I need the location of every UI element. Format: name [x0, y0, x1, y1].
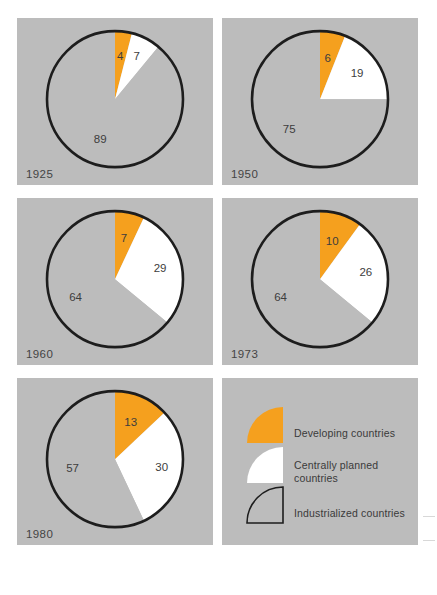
- slice-value-developing: 7: [121, 232, 127, 244]
- year-label-1950: 1950: [231, 169, 258, 181]
- slice-value-centrally_planned: 19: [351, 66, 364, 78]
- pie-panel-1980: 133057 1980: [17, 378, 213, 545]
- pie-chart-figure: 4789 1925 61975 1950 72964 1960 102664 1…: [0, 0, 437, 595]
- pie-chart-1925: 4789: [44, 27, 187, 170]
- legend-label-developing: Developing countries: [294, 427, 395, 440]
- legend-label-industrialized: Industrialized countries: [294, 507, 405, 520]
- legend-item-developing: Developing countries: [242, 405, 418, 445]
- slice-value-industrialized: 64: [69, 290, 82, 302]
- quarter-circle-white-icon: [245, 445, 285, 485]
- pie-chart-1960: 72964: [44, 207, 187, 350]
- year-label-1980: 1980: [26, 529, 53, 541]
- legend-item-industrialized: Industrialized countries: [242, 485, 418, 525]
- slice-value-centrally_planned: 29: [154, 262, 167, 274]
- quarter-circle-outline-icon: [245, 485, 285, 525]
- pie-chart-1973: 102664: [249, 207, 392, 350]
- slice-value-developing: 4: [117, 50, 124, 62]
- pie-panel-1950: 61975 1950: [222, 18, 418, 185]
- quarter-circle-orange-icon: [245, 405, 285, 445]
- pie-panel-1960: 72964 1960: [17, 198, 213, 365]
- year-label-1973: 1973: [231, 349, 258, 361]
- pie-svg-1980: 133057: [44, 387, 187, 530]
- pie-svg-1950: 61975: [249, 27, 392, 170]
- slice-value-developing: 10: [326, 234, 339, 246]
- pie-svg-1960: 72964: [44, 207, 187, 350]
- slice-value-centrally_planned: 26: [359, 266, 372, 278]
- pie-svg-1925: 4789: [44, 27, 187, 170]
- slice-value-developing: 13: [124, 415, 137, 427]
- legend-panel: Developing countries Centrally planned c…: [222, 378, 418, 545]
- slice-value-industrialized: 57: [66, 461, 79, 473]
- slice-value-industrialized: 89: [94, 133, 107, 145]
- pie-svg-1973: 102664: [249, 207, 392, 350]
- year-label-1960: 1960: [26, 349, 53, 361]
- page-edge-mark-2: [423, 540, 435, 541]
- slice-value-industrialized: 64: [274, 290, 287, 302]
- legend-label-centrally-planned: Centrally planned countries: [294, 459, 378, 484]
- slice-value-centrally_planned: 7: [133, 49, 139, 61]
- slice-value-centrally_planned: 30: [155, 461, 168, 473]
- pie-chart-1980: 133057: [44, 387, 187, 530]
- pie-panel-1925: 4789 1925: [17, 18, 213, 185]
- year-label-1925: 1925: [26, 169, 53, 181]
- legend-item-centrally-planned: Centrally planned countries: [242, 445, 418, 485]
- slice-value-developing: 6: [324, 52, 330, 64]
- pie-panel-1973: 102664 1973: [222, 198, 418, 365]
- page-edge-mark-1: [423, 516, 435, 517]
- legend: Developing countries Centrally planned c…: [242, 405, 418, 523]
- pie-chart-1950: 61975: [249, 27, 392, 170]
- slice-value-industrialized: 75: [283, 122, 296, 134]
